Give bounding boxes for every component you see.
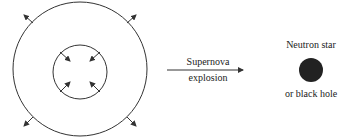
star-shells <box>13 2 147 136</box>
arrow-label-bottom: explosion <box>175 72 241 83</box>
outward-arrows <box>24 15 136 126</box>
result-label-top: Neutron star <box>271 39 349 50</box>
arrow-label-top: Supernova <box>175 56 241 67</box>
result-label-bottom: or black hole <box>271 88 349 99</box>
supernova-diagram <box>0 0 349 138</box>
remnant-dot <box>299 58 323 82</box>
inward-arrows <box>60 52 100 92</box>
outer-shell <box>13 2 147 136</box>
